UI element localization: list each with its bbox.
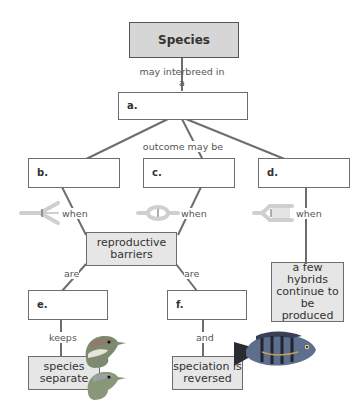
link-label-when-b: when	[62, 208, 88, 219]
reproductive-barriers-label: reproductive barriers	[87, 237, 176, 261]
stable-hybrid-zone-icon	[252, 201, 296, 225]
diverging-hybrid-zone-icon	[18, 200, 64, 226]
box-b-label: b.	[37, 167, 48, 179]
link-label-and: and	[196, 332, 214, 343]
blank-box-b[interactable]: b.	[28, 158, 120, 188]
reproductive-barriers-box: reproductive barriers	[86, 232, 177, 266]
link-label-when-c: when	[181, 208, 207, 219]
box-d-label: d.	[267, 167, 278, 179]
box-e-label: e.	[37, 299, 48, 311]
box-c-label: c.	[152, 167, 162, 179]
blank-box-f[interactable]: f.	[167, 290, 247, 320]
link-label-are-left: are	[64, 268, 79, 279]
blank-box-d[interactable]: d.	[258, 158, 350, 188]
link-label-are-right: are	[184, 268, 199, 279]
link-label-when-d: when	[296, 208, 322, 219]
bird-heads-image	[82, 330, 128, 402]
blank-box-e[interactable]: e.	[28, 290, 108, 320]
species-label: Species	[158, 34, 210, 46]
link-label-outcome: outcome may be	[138, 141, 228, 152]
blank-box-c[interactable]: c.	[143, 158, 235, 188]
link-label-keeps: keeps	[49, 332, 77, 343]
blank-box-a[interactable]: a.	[118, 92, 248, 120]
link-label-may-interbreed: may interbreed in a	[136, 66, 228, 88]
cichlid-fish-image	[232, 330, 318, 370]
box-a-label: a.	[127, 100, 138, 112]
hybrids-continue-box: a few hybrids continue to be produced	[271, 262, 344, 322]
box-f-label: f.	[176, 299, 184, 311]
merging-hybrid-zone-icon	[136, 203, 180, 223]
hybrids-continue-label: a few hybrids continue to be produced	[276, 262, 339, 322]
species-box: Species	[129, 22, 239, 58]
